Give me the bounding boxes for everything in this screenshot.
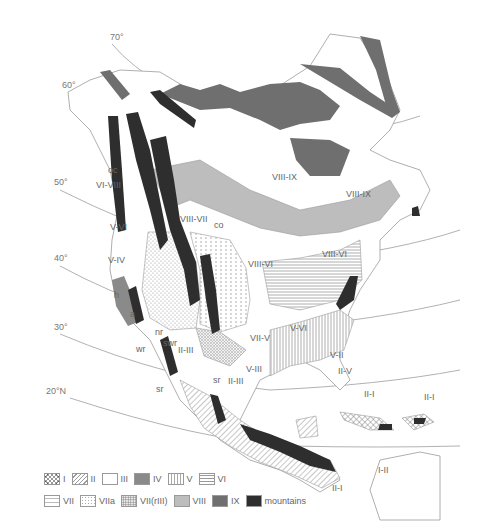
zone-label: VIII-VI [322,249,347,259]
zone-label: VIII-IX [272,172,297,182]
legend-item-VII: VII [44,495,74,507]
swatch-dashes [44,495,60,507]
zone-label: II-I [332,483,343,493]
legend-label: IX [231,496,240,506]
zone-label: sr [213,375,221,385]
zone-label: swr [163,338,177,348]
zone-label: I-II [378,465,389,475]
zone-label: nr [155,327,163,337]
legend-label: III [121,474,129,484]
zone-label: h [114,290,119,300]
zone-label: co [214,220,224,230]
zone-label: V-II [330,350,344,360]
lat-label-50: 50° [54,177,68,187]
swatch-dense-dots [121,495,137,507]
legend-row-1: I II III IV V VI [44,470,304,488]
legend-item-VII-rIII: VII(rIII) [121,495,168,507]
lat-label-60: 60° [62,80,76,90]
legend-label: V [187,474,193,484]
legend-item-IV: IV [134,473,162,485]
zone-label: oc [108,165,118,175]
zone-label: VIII-VI [248,259,273,269]
vegetation-zone-map: 70° 60° 50° 40° 30° 20°N oc VI-VIII V-VI… [0,0,478,530]
swatch-dots [80,495,96,507]
map-canvas: 70° 60° 50° 40° 30° 20°N oc VI-VIII V-VI… [0,0,478,530]
zone-label: VIII-IX [346,189,371,199]
zone-label: II-I [364,389,375,399]
legend-item-VIII: VIII [174,495,207,507]
legend-label: VII [63,496,74,506]
swatch-solid-light [174,495,190,507]
zone-label: VII-V [250,333,270,343]
legend-item-VI: VI [199,473,227,485]
legend-label: VII(rIII) [140,496,168,506]
zone-label: II-III [228,376,244,386]
zone-label: II-V [338,366,352,376]
swatch-vertical [168,473,184,485]
zone-label: V-VI [110,222,127,232]
swatch-solid-black [246,495,262,507]
zone-label: II-I [424,392,435,402]
zone-label: a [130,309,135,319]
legend-item-II: II [72,473,96,485]
map-legend: I II III IV V VI VII VIIa [44,470,304,514]
zone-label: VIII-VII [180,214,208,224]
legend-item-III: III [102,473,129,485]
legend-label: IV [153,474,162,484]
zone-label: wr [135,344,146,354]
zone-label: V-IV [108,255,125,265]
zone-label: V-III [246,364,262,374]
swatch-solid-mid [134,473,150,485]
legend-item-VIIa: VIIa [80,495,115,507]
zone-II-yucatan [296,416,318,438]
zone-label: sr [156,384,164,394]
zone-label: II-III [178,345,194,355]
zone-label: VI-VIII [96,180,121,190]
swatch-crosshatch [44,473,60,485]
lat-label-20n: 20°N [46,386,66,396]
swatch-horizontal [199,473,215,485]
lat-label-40: 40° [54,253,68,263]
legend-label: II [91,474,96,484]
swatch-diagonal [72,473,88,485]
legend-item-IX: IX [212,495,240,507]
swatch-solid-dark [212,495,228,507]
legend-item-I: I [44,473,66,485]
legend-item-mountains: mountains [246,495,307,507]
lat-label-70: 70° [110,32,124,42]
swatch-blank [102,473,118,485]
legend-item-V: V [168,473,193,485]
zone-label: V-VI [290,323,307,333]
legend-label: I [63,474,66,484]
legend-row-2: VII VIIa VII(rIII) VIII IX mountains [44,492,304,510]
legend-label: VI [218,474,227,484]
lat-label-30: 30° [54,322,68,332]
legend-label: VIII [193,496,207,506]
legend-label: VIIa [99,496,115,506]
legend-label: mountains [265,496,307,506]
